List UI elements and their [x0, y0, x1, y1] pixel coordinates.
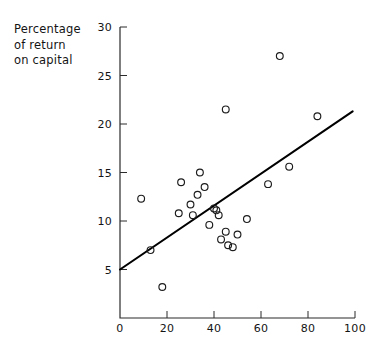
x-tick-label: 20	[160, 322, 175, 335]
x-tick-label: 100	[344, 322, 366, 335]
y-tick-label: 15	[97, 167, 112, 180]
data-point-marker	[244, 216, 251, 223]
data-point-marker	[222, 228, 229, 235]
data-point-marker	[276, 53, 283, 60]
y-tick-label: 25	[97, 70, 112, 83]
data-point-marker	[175, 210, 182, 217]
y-tick-label: 30	[97, 21, 112, 34]
axis-lines	[120, 27, 355, 318]
data-point-marker	[187, 201, 194, 208]
x-axis-ticks: 020406080100	[116, 311, 366, 335]
data-points	[138, 53, 321, 291]
x-tick-label: 80	[301, 322, 316, 335]
y-axis-ticks: 51015202530	[97, 21, 127, 277]
plot-canvas: 51015202530 020406080100	[0, 0, 367, 347]
axes-group	[120, 27, 355, 318]
y-tick-label: 20	[97, 118, 112, 131]
data-point-marker	[194, 191, 201, 198]
x-tick-label: 60	[254, 322, 269, 335]
y-tick-label: 10	[97, 215, 112, 228]
data-point-marker	[234, 231, 241, 238]
data-point-marker	[159, 284, 166, 291]
scatter-plot-figure: Percentage of return on capital 51015202…	[0, 0, 367, 347]
data-point-marker	[178, 179, 185, 186]
y-tick-label: 5	[105, 264, 112, 277]
data-point-marker	[138, 195, 145, 202]
data-point-marker	[222, 106, 229, 113]
x-tick-label: 0	[116, 322, 123, 335]
data-point-marker	[189, 212, 196, 219]
data-point-marker	[197, 169, 204, 176]
data-point-marker	[265, 181, 272, 188]
data-point-marker	[218, 236, 225, 243]
data-point-marker	[286, 163, 293, 170]
data-point-marker	[206, 221, 213, 228]
data-point-marker	[314, 113, 321, 120]
x-tick-label: 40	[207, 322, 222, 335]
data-point-marker	[201, 184, 208, 191]
